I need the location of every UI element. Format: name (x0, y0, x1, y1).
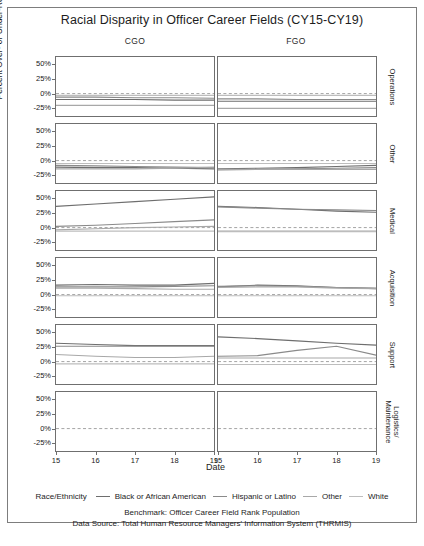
y-tick-mark (52, 64, 55, 65)
facet-panel-acquisition-cgo (55, 257, 215, 318)
panel-plot-area (56, 124, 214, 183)
facet-row-label-text: Other (388, 144, 396, 163)
y-tick-mark (52, 242, 55, 243)
panel-plot-area (56, 325, 214, 384)
chart-page: Racial Disparity in Officer Career Field… (0, 0, 424, 546)
y-tick-label: 50% (21, 327, 51, 336)
y-tick-label: 0% (21, 424, 51, 433)
y-tick-label: -25% (21, 170, 51, 179)
facet-row-label-medical: Medical (381, 190, 403, 251)
x-tick-mark (376, 452, 377, 455)
series-line (218, 337, 376, 345)
x-tick-label: 17 (125, 456, 145, 465)
facet-panel-logistics-fgo (217, 391, 377, 452)
series-line (56, 286, 214, 287)
series-line (56, 288, 214, 289)
y-tick-mark (52, 228, 55, 229)
y-tick-mark (52, 429, 55, 430)
y-tick-label: 50% (21, 193, 51, 202)
y-tick-label: 0% (21, 357, 51, 366)
legend-line-swatch (303, 496, 317, 497)
x-tick-label: 19 (366, 456, 386, 465)
facet-row-label-text: Acquisition (388, 269, 396, 305)
series-line (56, 226, 214, 230)
series-line (218, 99, 376, 100)
x-tick-label: 17 (287, 456, 307, 465)
legend-item-label: Black or African American (115, 492, 206, 501)
y-tick-mark (52, 161, 55, 162)
y-tick-label: 25% (21, 74, 51, 83)
x-tick-mark (56, 452, 57, 455)
x-tick-mark (337, 452, 338, 455)
panel-plot-area (218, 325, 376, 384)
x-tick-mark (96, 452, 97, 455)
facet-row-label-operations: Operations (381, 56, 403, 117)
facet-panel-other-cgo (55, 123, 215, 184)
legend-item-label: Other (322, 492, 342, 501)
facet-row-label-text: Logistics/Maintenance (384, 400, 400, 443)
x-tick-mark (214, 452, 215, 455)
y-tick-mark (52, 443, 55, 444)
y-tick-mark (52, 131, 55, 132)
facet-panel-logistics-cgo (55, 391, 215, 452)
x-tick-mark (175, 452, 176, 455)
y-tick-label: 0% (21, 223, 51, 232)
y-tick-label: -25% (21, 237, 51, 246)
panel-plot-area (218, 191, 376, 250)
y-tick-mark (52, 347, 55, 348)
facet-panel-operations-cgo (55, 56, 215, 117)
y-tick-label: -25% (21, 304, 51, 313)
panel-plot-area (56, 191, 214, 250)
y-tick-label: 0% (21, 89, 51, 98)
y-tick-mark (52, 399, 55, 400)
x-tick-label: 16 (248, 456, 268, 465)
y-tick-mark (52, 376, 55, 377)
panel-plot-area (56, 392, 214, 451)
y-tick-mark (52, 79, 55, 80)
legend-line-swatch (349, 496, 363, 497)
y-tick-mark (52, 295, 55, 296)
y-tick-mark (52, 414, 55, 415)
panel-plot-area (218, 57, 376, 116)
legend-item[interactable]: Other (303, 492, 342, 501)
y-tick-label: 25% (21, 275, 51, 284)
x-tick-mark (258, 452, 259, 455)
facet-panel-operations-fgo (217, 56, 377, 117)
panel-plot-area (56, 258, 214, 317)
x-tick-label: 16 (86, 456, 106, 465)
series-line (218, 346, 376, 356)
series-line (56, 343, 214, 345)
benchmark-caption: Benchmark: Officer Career Field Rank Pop… (0, 508, 424, 517)
legend: Race/Ethnicity Black or African American… (0, 492, 424, 501)
y-tick-mark (52, 213, 55, 214)
y-tick-mark (52, 265, 55, 266)
y-tick-label: -25% (21, 438, 51, 447)
facet-row-label-support: Support (381, 324, 403, 385)
column-header-cgo: CGO (55, 36, 215, 46)
y-tick-mark (52, 362, 55, 363)
y-tick-label: 50% (21, 59, 51, 68)
legend-item[interactable]: White (349, 492, 388, 501)
page-title: Racial Disparity in Officer Career Field… (0, 13, 424, 27)
x-tick-mark (297, 452, 298, 455)
y-tick-label: 0% (21, 290, 51, 299)
facet-panel-other-fgo (217, 123, 377, 184)
y-tick-mark (52, 309, 55, 310)
series-line (56, 283, 214, 285)
legend-item[interactable]: Hispanic or Latino (213, 492, 296, 501)
facet-panel-medical-fgo (217, 190, 377, 251)
y-tick-mark (52, 280, 55, 281)
facet-row-label-text: Support (388, 341, 396, 367)
facet-panel-support-cgo (55, 324, 215, 385)
x-tick-mark (135, 452, 136, 455)
legend-item-label: Hispanic or Latino (232, 492, 296, 501)
legend-line-swatch (96, 496, 110, 497)
facet-panel-support-fgo (217, 324, 377, 385)
y-tick-label: 25% (21, 208, 51, 217)
panel-plot-area (218, 124, 376, 183)
series-line (218, 207, 376, 211)
panel-plot-area (56, 57, 214, 116)
x-tick-label: 18 (327, 456, 347, 465)
legend-item[interactable]: Black or African American (96, 492, 206, 501)
facet-row-label-other: Other (381, 123, 403, 184)
